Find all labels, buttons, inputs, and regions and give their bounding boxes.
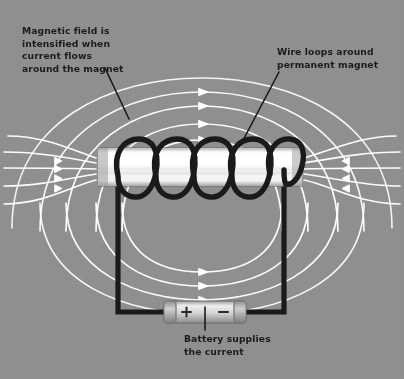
annotation-magnetic-field: Magnetic field is intensified when curre… — [22, 25, 123, 75]
annotation-wire-loops: Wire loops around permanent magnet — [277, 46, 378, 71]
field-arrow-right-pole — [342, 158, 349, 193]
annotation-battery: Battery supplies the current — [184, 333, 271, 358]
field-arrow-left-pole — [55, 158, 62, 193]
field-arrow-top — [199, 89, 208, 144]
field-arrow-bottom — [199, 269, 208, 304]
leader-line-field — [105, 68, 129, 119]
diagram-canvas: Magnetic field is intensified when curre… — [0, 0, 404, 379]
